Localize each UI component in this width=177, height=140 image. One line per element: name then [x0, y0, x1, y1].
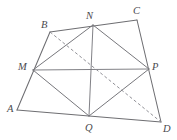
diagonal-NQ: [89, 25, 93, 116]
vertex-label-M: M: [18, 62, 27, 73]
edge-MN: [33, 25, 93, 70]
edge-QM: [33, 70, 89, 116]
edge-NP: [93, 25, 149, 69]
diagonal-BD: [50, 32, 161, 122]
vertex-label-D: D: [163, 124, 171, 135]
geometry-figure: A B C D M N P Q: [0, 0, 177, 140]
vertex-label-Q: Q: [85, 123, 93, 134]
edge-PQ: [89, 69, 149, 116]
vertex-label-C: C: [133, 6, 140, 17]
vertex-label-P: P: [152, 62, 158, 73]
vertex-label-A: A: [7, 104, 13, 115]
vertex-label-N: N: [86, 11, 93, 22]
vertex-label-B: B: [41, 20, 47, 31]
